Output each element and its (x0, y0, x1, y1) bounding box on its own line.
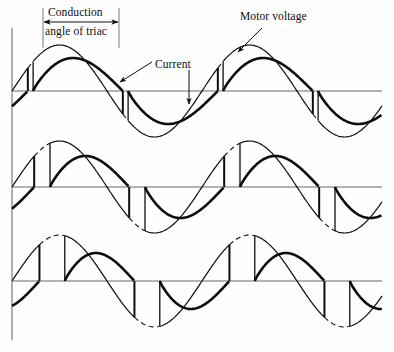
motor-voltage-curve (50, 141, 129, 218)
supply-blocked-dashed (134, 317, 159, 327)
motor-voltage-curve (12, 156, 34, 187)
current-curve (12, 187, 34, 208)
motor-voltage-curve (12, 68, 28, 91)
current-curve (65, 253, 134, 281)
current-curve (255, 253, 324, 281)
current-curve (12, 281, 39, 305)
motor-voltage-curve (240, 141, 319, 218)
supply-blocked-dashed (224, 143, 240, 156)
current-curve (350, 281, 382, 309)
supply-blocked-dashed (324, 317, 349, 327)
waveform-diagram (0, 0, 394, 352)
supply-blocked-dashed (218, 61, 223, 68)
current-curve (160, 281, 229, 309)
supply-blocked-dashed (123, 114, 128, 121)
supply-blocked-dashed (313, 114, 318, 121)
motor-voltage-curve (160, 245, 230, 327)
current-curve (223, 58, 313, 91)
current-leader-left (120, 62, 152, 82)
conduction-angle-label-line1: Conduction (48, 6, 103, 19)
waveforms-group (12, 45, 382, 327)
motor-voltage-curve (255, 236, 325, 318)
axes-group (12, 28, 382, 340)
current-label: Current (155, 58, 191, 71)
annotations-group (43, 8, 262, 104)
current-curve (335, 187, 381, 218)
motor-voltage-curve (12, 245, 39, 281)
supply-blocked-dashed (129, 218, 145, 231)
supply-blocked-dashed (319, 218, 335, 231)
motor-voltage-leader (238, 28, 262, 52)
current-curve (12, 92, 27, 107)
current-curve (128, 91, 218, 124)
supply-blocked-dashed (34, 143, 50, 156)
conduction-angle-label-line2: angle of triac (45, 25, 107, 38)
figure-container: Conduction angle of triac Motor voltage … (0, 0, 394, 352)
motor-voltage-curve (350, 296, 382, 326)
supply-blocked-dashed (39, 235, 64, 245)
motor-voltage-curve (145, 156, 224, 233)
current-curve (33, 58, 123, 91)
supply-blocked-dashed (28, 61, 33, 68)
supply-blocked-dashed (229, 235, 254, 245)
motor-voltage-label: Motor voltage (240, 10, 307, 23)
motor-voltage-curve (65, 236, 135, 318)
